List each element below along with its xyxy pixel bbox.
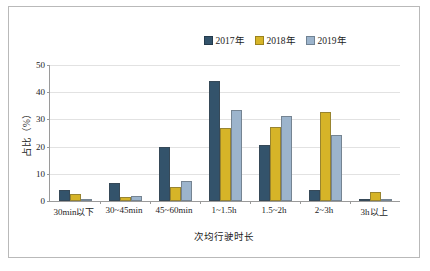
y-axis-tick-label: 0 bbox=[41, 196, 46, 206]
bar-2018年-2~3h[interactable] bbox=[320, 112, 331, 201]
bar-group bbox=[100, 65, 150, 201]
bar-2017年-1.5~2h[interactable] bbox=[259, 145, 270, 201]
bar-group bbox=[250, 65, 300, 201]
bar-2018年-3h以上[interactable] bbox=[370, 192, 381, 201]
x-axis-tick-mark bbox=[100, 201, 101, 204]
bar-2018年-45~60min[interactable] bbox=[170, 187, 181, 201]
legend-item-2018年[interactable]: 2018年 bbox=[255, 33, 296, 47]
y-axis-tick-label: 10 bbox=[36, 169, 45, 179]
bar-2018年-1.5~2h[interactable] bbox=[270, 127, 281, 201]
bar-groups bbox=[50, 65, 400, 201]
bar-2017年-2~3h[interactable] bbox=[309, 190, 320, 201]
x-axis-tick-label: 2~3h bbox=[299, 205, 349, 218]
bar-group bbox=[300, 65, 350, 201]
y-axis-tick-label: 30 bbox=[36, 114, 45, 124]
y-axis-tick-label: 20 bbox=[36, 142, 45, 152]
y-axis-tick-label: 50 bbox=[36, 60, 45, 70]
x-axis-tick-label: 45~60min bbox=[149, 205, 199, 218]
x-axis-tick-label: 30~45min bbox=[99, 205, 149, 218]
x-axis-tick-label: 3h以上 bbox=[349, 205, 399, 218]
x-axis-tick-label: 30min以下 bbox=[49, 205, 99, 218]
legend-swatch-icon bbox=[204, 36, 213, 45]
bar-group bbox=[350, 65, 400, 201]
legend-label: 2017年 bbox=[216, 33, 245, 47]
bar-2019年-30~45min[interactable] bbox=[131, 196, 142, 201]
bar-2019年-3h以上[interactable] bbox=[381, 199, 392, 201]
bar-group bbox=[200, 65, 250, 201]
legend-swatch-icon bbox=[306, 36, 315, 45]
legend-swatch-icon bbox=[255, 36, 264, 45]
legend-label: 2018年 bbox=[267, 33, 296, 47]
x-axis-tick-mark bbox=[150, 201, 151, 204]
bar-2017年-30~45min[interactable] bbox=[109, 183, 120, 201]
legend-label: 2019年 bbox=[318, 33, 347, 47]
x-axis-tick-mark bbox=[300, 201, 301, 204]
legend-item-2017年[interactable]: 2017年 bbox=[204, 33, 245, 47]
plot-area: 01020304050 bbox=[49, 65, 400, 202]
bar-group bbox=[150, 65, 200, 201]
x-axis-tick-label: 1.5~2h bbox=[249, 205, 299, 218]
chart-legend: 2017年2018年2019年 bbox=[9, 33, 421, 47]
bar-2019年-30min以下[interactable] bbox=[81, 199, 92, 201]
x-axis-tick-mark bbox=[200, 201, 201, 204]
bar-2018年-30~45min[interactable] bbox=[120, 197, 131, 201]
bar-2017年-30min以下[interactable] bbox=[59, 190, 70, 201]
chart-frame: 2017年2018年2019年 占比（%） 01020304050 30min以… bbox=[8, 6, 420, 258]
bar-2019年-1.5~2h[interactable] bbox=[281, 116, 292, 201]
x-axis-tick-label: 1~1.5h bbox=[199, 205, 249, 218]
bar-2018年-30min以下[interactable] bbox=[70, 194, 81, 201]
bar-group bbox=[50, 65, 100, 201]
y-axis-title: 占比（%） bbox=[19, 65, 33, 201]
bar-2017年-1~1.5h[interactable] bbox=[209, 81, 220, 201]
x-axis-tick-mark bbox=[250, 201, 251, 204]
bar-2019年-45~60min[interactable] bbox=[181, 181, 192, 201]
y-axis-tick-label: 40 bbox=[36, 87, 45, 97]
bar-2019年-2~3h[interactable] bbox=[331, 135, 342, 201]
bar-2017年-45~60min[interactable] bbox=[159, 147, 170, 201]
x-axis-tick-mark bbox=[350, 201, 351, 204]
bar-2019年-1~1.5h[interactable] bbox=[231, 110, 242, 201]
x-axis-title: 次均行驶时长 bbox=[49, 229, 399, 243]
y-axis-title-label: 占比（%） bbox=[19, 109, 33, 157]
bar-2018年-1~1.5h[interactable] bbox=[220, 128, 231, 201]
bar-2017年-3h以上[interactable] bbox=[359, 199, 370, 201]
x-axis-tick-labels: 30min以下30~45min45~60min1~1.5h1.5~2h2~3h3… bbox=[49, 205, 399, 218]
legend-item-2019年[interactable]: 2019年 bbox=[306, 33, 347, 47]
y-axis-tick-mark bbox=[47, 201, 50, 202]
